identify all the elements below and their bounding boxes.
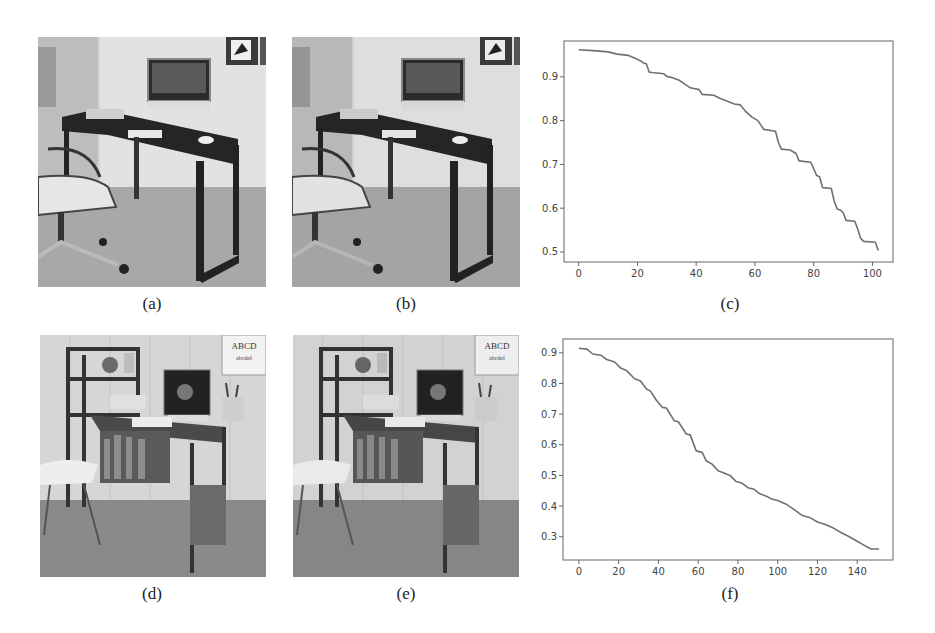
- axes-frame: [564, 41, 893, 262]
- y-tick-label: 0.4: [541, 501, 557, 512]
- photo-panel-e: ABCD abcdef: [293, 335, 519, 577]
- x-tick-label: 100: [768, 566, 787, 577]
- photo-panel-d: ABCD abcdef: [40, 335, 266, 577]
- data-line: [579, 50, 879, 251]
- x-tick-label: 80: [732, 566, 745, 577]
- x-tick-label: 40: [652, 566, 665, 577]
- data-line: [579, 348, 879, 549]
- x-tick-label: 140: [848, 566, 867, 577]
- photo-panel-a: [38, 37, 266, 287]
- caption-b: (b): [376, 294, 436, 314]
- chart-f-svg: 0204060801001201400.30.40.50.60.70.80.9: [540, 325, 910, 585]
- x-tick-label: 0: [576, 268, 582, 279]
- chart-c-svg: 0204060801000.50.60.70.80.9: [540, 30, 910, 290]
- x-tick-label: 120: [808, 566, 827, 577]
- x-tick-label: 40: [690, 268, 703, 279]
- y-tick-label: 0.7: [541, 409, 557, 420]
- caption-d: (d): [122, 584, 182, 604]
- y-tick-label: 0.9: [542, 71, 558, 82]
- y-tick-label: 0.5: [542, 246, 558, 257]
- x-tick-label: 80: [807, 268, 820, 279]
- caption-e: (e): [376, 584, 436, 604]
- x-tick-label: 0: [576, 566, 582, 577]
- y-tick-label: 0.8: [541, 378, 557, 389]
- y-tick-label: 0.9: [541, 347, 557, 358]
- line-chart-c: 0204060801000.50.60.70.80.9: [540, 30, 910, 290]
- x-tick-label: 60: [692, 566, 705, 577]
- x-tick-label: 100: [863, 268, 882, 279]
- caption-f: (f): [700, 584, 760, 604]
- axes-frame: [563, 339, 893, 560]
- photo-panel-b: [292, 37, 520, 287]
- svg-text:abcdef: abcdef: [236, 355, 252, 361]
- bookshelf-desk-image: ABCD abcdef: [40, 335, 266, 577]
- svg-text:ABCD: ABCD: [231, 341, 257, 351]
- y-tick-label: 0.3: [541, 531, 557, 542]
- y-tick-label: 0.5: [541, 470, 557, 481]
- svg-text:ABCD: ABCD: [484, 341, 510, 351]
- bookshelf-desk-image: ABCD abcdef: [293, 335, 519, 577]
- svg-text:abcdef: abcdef: [489, 355, 505, 361]
- desk-scene-image: [292, 37, 520, 287]
- x-tick-label: 20: [631, 268, 644, 279]
- caption-c: (c): [700, 294, 760, 314]
- desk-scene-image: [38, 37, 266, 287]
- y-tick-label: 0.7: [542, 159, 558, 170]
- x-tick-label: 20: [612, 566, 625, 577]
- caption-a: (a): [122, 294, 182, 314]
- y-tick-label: 0.6: [541, 439, 557, 450]
- y-tick-label: 0.8: [542, 115, 558, 126]
- line-chart-f: 0204060801001201400.30.40.50.60.70.80.9: [540, 325, 910, 585]
- y-tick-label: 0.6: [542, 203, 558, 214]
- x-tick-label: 60: [749, 268, 762, 279]
